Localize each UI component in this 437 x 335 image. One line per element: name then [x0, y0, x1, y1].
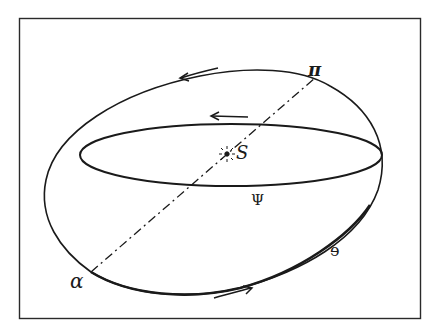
inner-orbit-label: Ψ [251, 193, 264, 208]
outer-orbit [44, 70, 382, 295]
sun-label: S [236, 144, 248, 162]
inner-orbit [80, 124, 382, 186]
sun-icon [219, 146, 235, 162]
perihelion-label: π [308, 61, 321, 79]
orbit-diagram [0, 0, 437, 335]
apse-line [91, 78, 315, 272]
arrow-inner-top-left-icon [211, 112, 248, 120]
aphelion-label: α [70, 271, 84, 291]
outer-orbit-label: e [330, 243, 339, 259]
